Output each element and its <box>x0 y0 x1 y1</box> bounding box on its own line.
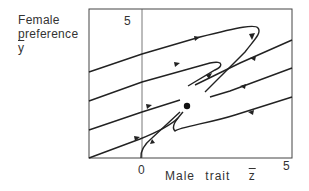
arrow-icon <box>249 33 255 40</box>
arrow-icon <box>240 84 246 89</box>
trajectory-7 <box>89 118 178 158</box>
arrow-icon <box>146 104 152 109</box>
trajectory-5 <box>173 97 292 131</box>
trajectory-8 <box>141 112 180 158</box>
plot-frame <box>89 9 292 158</box>
phase-diagram <box>0 0 309 191</box>
arrow-icon <box>174 62 180 67</box>
trajectory-1 <box>89 26 259 92</box>
equilibrium-point <box>184 103 190 109</box>
